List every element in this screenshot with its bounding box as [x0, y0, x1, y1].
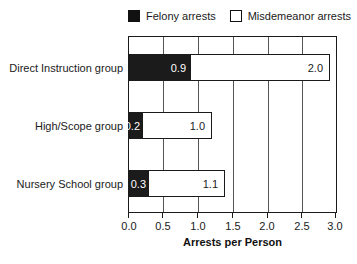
legend-entry-felony: Felony arrests [128, 10, 216, 22]
x-tick-label: 0.5 [155, 220, 170, 233]
category-label-nursery-school: Nursery School group [0, 177, 123, 191]
x-axis-title: Arrests per Person [128, 236, 337, 248]
bar-segment-felony: 0.9 [128, 54, 191, 81]
bar-value-label-misdemeanor: 1.1 [203, 178, 218, 190]
tick-mark [128, 213, 129, 218]
table-row: 0.9 2.0 [128, 54, 330, 81]
x-axis-ticks [128, 213, 337, 219]
table-row: 0.3 1.1 [128, 170, 225, 197]
tick-mark [162, 213, 163, 218]
bar-segment-misdemeanor: 1.1 [148, 170, 225, 197]
legend-label-misdemeanor: Misdemeanor arrests [248, 10, 351, 22]
bar-value-label-felony: 0.9 [171, 62, 186, 74]
tick-mark [301, 213, 302, 218]
tick-mark [335, 213, 336, 218]
table-row: 0.2 1.0 [128, 112, 212, 139]
bar-segment-felony: 0.2 [128, 112, 143, 139]
bar-value-label-misdemeanor: 1.0 [190, 120, 205, 132]
bar-value-label-misdemeanor: 2.0 [308, 62, 323, 74]
x-tick-label: 2.0 [259, 220, 274, 233]
bar-value-label-felony: 0.3 [131, 178, 146, 190]
x-tick-label: 1.0 [190, 220, 205, 233]
arrests-per-person-chart: Felony arrests Misdemeanor arrests Direc… [0, 0, 357, 264]
bar-value-label-felony: 0.2 [125, 120, 140, 132]
x-tick-label: 0.0 [121, 220, 136, 233]
bars-layer: 0.9 2.0 0.2 1.0 0.3 1.1 [128, 36, 337, 213]
legend-swatch-felony-icon [128, 10, 140, 22]
legend-label-felony: Felony arrests [146, 10, 216, 22]
category-label-direct-instruction: Direct Instruction group [0, 61, 123, 75]
chart-legend: Felony arrests Misdemeanor arrests [128, 6, 351, 26]
bar-segment-felony: 0.3 [128, 170, 149, 197]
legend-entry-misdemeanor: Misdemeanor arrests [230, 10, 351, 22]
tick-mark [197, 213, 198, 218]
x-tick-label: 2.5 [294, 220, 309, 233]
category-axis-labels: Direct Instruction group High/Scope grou… [0, 36, 123, 213]
x-axis-tick-labels: 0.0 0.5 1.0 1.5 2.0 2.5 3.0 [128, 220, 337, 234]
tick-mark [267, 213, 268, 218]
bar-segment-misdemeanor: 1.0 [142, 112, 212, 139]
x-tick-label: 1.5 [225, 220, 240, 233]
x-tick-label: 3.0 [327, 220, 342, 233]
legend-swatch-misdemeanor-icon [230, 10, 242, 22]
tick-mark [232, 213, 233, 218]
bar-segment-misdemeanor: 2.0 [190, 54, 330, 81]
category-label-high-scope: High/Scope group [0, 119, 123, 133]
